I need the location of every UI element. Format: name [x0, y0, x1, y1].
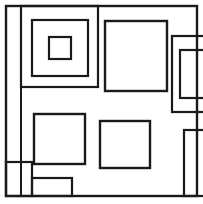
- line-drawing-figure: [0, 0, 203, 204]
- figure-canvas: [0, 0, 203, 204]
